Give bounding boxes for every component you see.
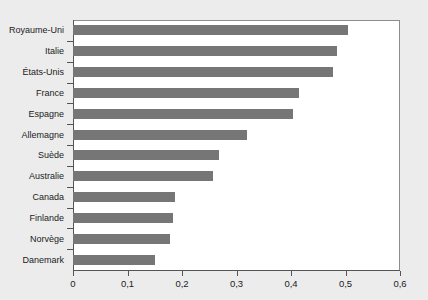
x-axis-tick bbox=[128, 271, 129, 276]
x-axis-tick bbox=[182, 271, 183, 276]
bar-row bbox=[73, 145, 400, 166]
y-axis-label: Suède bbox=[38, 150, 64, 160]
x-axis-tick bbox=[291, 271, 292, 276]
x-axis-tick-label: 0,2 bbox=[175, 278, 188, 289]
y-axis-label: Italie bbox=[45, 46, 64, 56]
y-axis-label: France bbox=[36, 88, 64, 98]
bar-row bbox=[73, 124, 400, 145]
bar bbox=[73, 213, 173, 223]
bar-row bbox=[73, 82, 400, 103]
bar bbox=[73, 88, 299, 98]
bar-row bbox=[73, 103, 400, 124]
bar-row bbox=[73, 166, 400, 187]
y-axis-label: Espagne bbox=[28, 109, 64, 119]
y-axis-label: Canada bbox=[32, 192, 64, 202]
x-axis-tick bbox=[346, 271, 347, 276]
x-axis-tick-label: 0,6 bbox=[393, 278, 406, 289]
bar bbox=[73, 130, 247, 140]
bar-row bbox=[73, 228, 400, 249]
y-axis-label: Royaume-Uni bbox=[9, 25, 64, 35]
y-axis-label: Allemagne bbox=[21, 130, 64, 140]
y-axis-label: Finlande bbox=[29, 213, 64, 223]
y-axis-label: Australie bbox=[29, 171, 64, 181]
y-axis-label: Danemark bbox=[22, 255, 64, 265]
bar bbox=[73, 67, 333, 77]
y-axis-labels: Royaume-UniItalieÉtats-UnisFranceEspagne… bbox=[0, 20, 69, 270]
bar-row bbox=[73, 20, 400, 41]
y-axis-label: Norvège bbox=[30, 234, 64, 244]
bar bbox=[73, 234, 170, 244]
x-axis-tick-label: 0 bbox=[70, 278, 75, 289]
bar bbox=[73, 46, 337, 56]
x-axis-tick-label: 0,3 bbox=[230, 278, 243, 289]
bar bbox=[73, 109, 293, 119]
bar-row bbox=[73, 187, 400, 208]
x-axis-tick-label: 0,4 bbox=[284, 278, 297, 289]
x-axis-tick bbox=[73, 271, 74, 276]
bar-row bbox=[73, 249, 400, 270]
bar bbox=[73, 192, 175, 202]
bar-chart: Royaume-UniItalieÉtats-UnisFranceEspagne… bbox=[0, 0, 428, 300]
y-axis-label: États-Unis bbox=[22, 67, 64, 77]
x-axis-tick bbox=[400, 271, 401, 276]
x-axis-tick-label: 0,5 bbox=[339, 278, 352, 289]
x-axis-tick bbox=[237, 271, 238, 276]
bar bbox=[73, 171, 213, 181]
bars-layer bbox=[73, 20, 400, 270]
bar-row bbox=[73, 41, 400, 62]
x-axis-tick-label: 0,1 bbox=[121, 278, 134, 289]
bar bbox=[73, 150, 219, 160]
bar bbox=[73, 25, 348, 35]
bar-row bbox=[73, 207, 400, 228]
bar-row bbox=[73, 62, 400, 83]
bar bbox=[73, 255, 155, 265]
